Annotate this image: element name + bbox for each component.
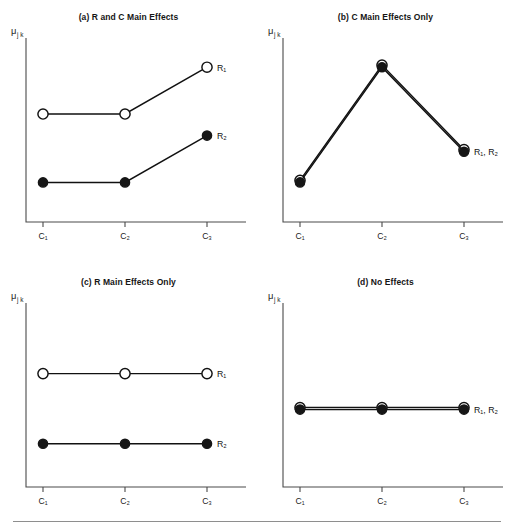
footer-divider xyxy=(13,521,501,522)
x-axis-tick-label: C₃ xyxy=(202,496,212,506)
series-line xyxy=(43,67,207,114)
data-point-filled xyxy=(295,405,304,414)
panel-b: (b) C Main Effects Only μj kC₁C₂C₃R₁, R₂ xyxy=(257,0,514,265)
axis-lines xyxy=(283,38,503,222)
y-axis-label: μj k xyxy=(11,290,24,304)
x-axis-tick-label: C₃ xyxy=(459,231,469,241)
data-point-open xyxy=(202,369,212,379)
x-axis-tick-label: C₂ xyxy=(377,496,387,506)
series-label: R₁, R₂ xyxy=(474,405,498,415)
series-label: R₂ xyxy=(217,439,227,449)
panel-c-chart: μj kC₁C₂C₃R₁R₂ xyxy=(0,265,257,530)
panel-d-chart: μj kC₁C₂C₃R₁, R₂ xyxy=(257,265,514,530)
data-point-filled xyxy=(377,63,386,72)
data-point-filled xyxy=(202,439,211,448)
x-axis-tick-label: C₂ xyxy=(120,496,130,506)
x-axis-tick-label: C₁ xyxy=(295,231,304,241)
x-axis-tick-label: C₃ xyxy=(202,231,212,241)
x-axis-tick-label: C₂ xyxy=(120,231,130,241)
y-axis-label: μj k xyxy=(268,25,281,39)
panel-d: (d) No Effects μj kC₁C₂C₃R₁, R₂ xyxy=(257,265,514,530)
x-axis-tick-label: C₁ xyxy=(38,231,47,241)
y-axis-label: μj k xyxy=(11,25,24,39)
panel-c: (c) R Main Effects Only μj kC₁C₂C₃R₁R₂ xyxy=(0,265,257,530)
data-point-filled xyxy=(459,147,468,156)
x-axis-tick-label: C₃ xyxy=(459,496,469,506)
panel-a: (a) R and C Main Effects μj kC₁C₂C₃R₁R₂ xyxy=(0,0,257,265)
series-label: R₁ xyxy=(217,369,226,379)
data-point-filled xyxy=(377,405,386,414)
panel-a-chart: μj kC₁C₂C₃R₁R₂ xyxy=(0,0,257,265)
axis-lines xyxy=(283,303,503,487)
series-label: R₁ xyxy=(217,63,226,73)
data-point-filled xyxy=(202,131,211,140)
data-point-filled xyxy=(38,439,47,448)
x-axis-tick-label: C₁ xyxy=(295,496,304,506)
data-point-filled xyxy=(120,178,129,187)
data-point-open xyxy=(202,62,212,72)
data-point-filled xyxy=(38,178,47,187)
axis-lines xyxy=(26,38,246,222)
data-point-open xyxy=(120,109,130,119)
data-point-filled xyxy=(120,439,129,448)
data-point-filled xyxy=(295,178,304,187)
series-line xyxy=(43,136,207,183)
data-point-open xyxy=(38,109,48,119)
panel-b-chart: μj kC₁C₂C₃R₁, R₂ xyxy=(257,0,514,265)
interaction-plots-figure: (a) R and C Main Effects μj kC₁C₂C₃R₁R₂ … xyxy=(0,0,514,530)
y-axis-label: μj k xyxy=(268,290,281,304)
data-point-open xyxy=(38,369,48,379)
panel-grid: (a) R and C Main Effects μj kC₁C₂C₃R₁R₂ … xyxy=(0,0,514,530)
series-label: R₁, R₂ xyxy=(474,147,498,157)
series-label: R₂ xyxy=(217,131,227,141)
data-point-open xyxy=(120,369,130,379)
x-axis-tick-label: C₁ xyxy=(38,496,47,506)
series-line xyxy=(300,65,464,180)
x-axis-tick-label: C₂ xyxy=(377,231,387,241)
axis-lines xyxy=(26,303,246,487)
data-point-filled xyxy=(459,405,468,414)
